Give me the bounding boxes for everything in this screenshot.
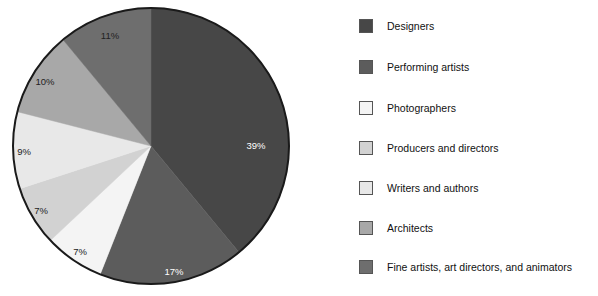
legend-item[interactable]: Fine artists, art directors, and animato… [359,259,572,275]
legend-item-label: Performing artists [387,61,469,73]
pie-slice-value-label: 7% [73,246,87,257]
legend-item-label: Architects [387,222,433,234]
legend-item[interactable]: Performing artists [359,59,469,75]
legend: DesignersPerforming artistsPhotographers… [359,0,598,296]
legend-item[interactable]: Writers and authors [359,180,478,196]
legend-color-swatch [359,141,373,155]
legend-item-label: Writers and authors [387,182,478,194]
pie-chart-figure: 39%17%7%7%9%10%11% DesignersPerforming a… [0,0,598,296]
legend-color-swatch [359,181,373,195]
pie-slice-value-label: 17% [164,266,184,277]
legend-color-swatch [359,19,373,33]
pie-slice-value-label: 11% [101,30,120,41]
legend-item[interactable]: Photographers [359,100,456,116]
pie-svg: 39%17%7%7%9%10%11% [0,0,340,296]
legend-item-label: Producers and directors [387,142,498,154]
pie-slice-value-label: 10% [35,76,55,87]
pie-plot-area: 39%17%7%7%9%10%11% [0,0,340,296]
legend-item-label: Photographers [387,102,456,114]
legend-color-swatch [359,101,373,115]
legend-color-swatch [359,221,373,235]
pie-slice-value-label: 9% [17,146,31,157]
pie-slice-value-label: 39% [246,140,266,151]
legend-item-label: Fine artists, art directors, and animato… [387,261,572,273]
legend-item-label: Designers [387,20,434,32]
pie-slice-value-label: 7% [34,205,48,216]
legend-item[interactable]: Producers and directors [359,140,498,156]
legend-item[interactable]: Designers [359,18,434,34]
legend-color-swatch [359,260,373,274]
legend-item[interactable]: Architects [359,220,433,236]
legend-color-swatch [359,60,373,74]
